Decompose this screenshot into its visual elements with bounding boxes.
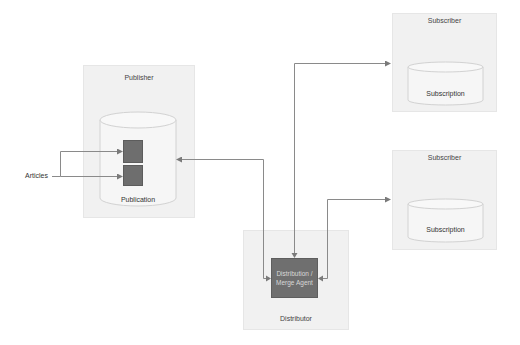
arrowhead-into-agent-top: [292, 253, 298, 258]
arrowhead-into-agent-left: [266, 276, 271, 282]
articles-connector-1: [52, 152, 122, 177]
agent-to-subscriber2-connector: [319, 200, 390, 279]
connectors: [0, 0, 520, 345]
agent-to-subscriber1-connector: [295, 64, 391, 258]
agent-to-publication-connector: [177, 160, 270, 279]
arrowhead-into-agent-right: [318, 276, 323, 282]
